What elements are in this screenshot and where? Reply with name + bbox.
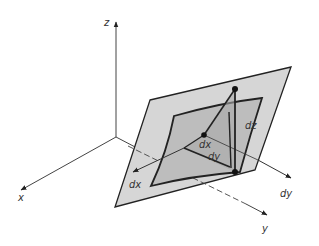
dy-surface-label: dy <box>208 151 221 162</box>
bottom-point <box>232 169 238 175</box>
dx-arrow-label: dx <box>129 179 141 190</box>
z-axis-label: z <box>103 17 110 28</box>
x-axis <box>21 137 116 190</box>
base-point <box>201 132 207 138</box>
dy-arrow-label: dy <box>280 188 293 199</box>
top-point <box>232 86 238 92</box>
x-axis-label: x <box>17 192 24 203</box>
y-axis <box>246 204 267 215</box>
dx-surface-label: dx <box>199 139 211 150</box>
dz-label: dz <box>245 120 257 131</box>
tangent-plane-diagram: z x y dx dy dz dx dy <box>0 0 319 246</box>
y-axis-label: y <box>261 223 269 234</box>
dy-arrow <box>258 160 291 178</box>
